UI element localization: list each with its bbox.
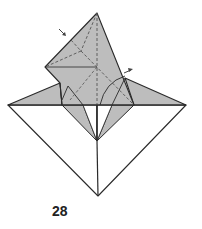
origami-diagram xyxy=(0,0,202,229)
left-wing xyxy=(8,83,62,105)
push-arrow-right-icon xyxy=(124,68,133,73)
step-number-label: 28 xyxy=(52,203,68,219)
upper-flap xyxy=(8,13,186,105)
right-wing xyxy=(125,78,186,105)
push-arrow-top-left-icon xyxy=(59,29,66,36)
